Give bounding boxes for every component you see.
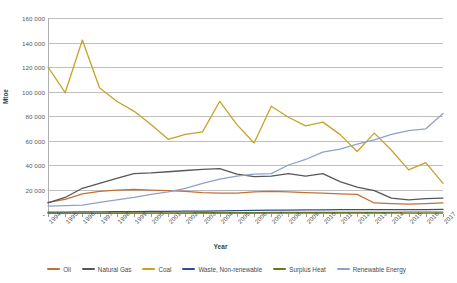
x-tick-label: 2017 bbox=[442, 210, 457, 225]
x-axis-title: Year bbox=[0, 243, 453, 250]
legend-swatch-icon bbox=[47, 268, 60, 270]
series-line-coal bbox=[48, 40, 443, 183]
legend-item-waste-non-renewable[interactable]: Waste, Non-renewable bbox=[182, 266, 262, 273]
y-tick-label: 160 000 bbox=[22, 15, 45, 22]
y-tick-label: 140 000 bbox=[22, 39, 45, 46]
y-tick-label: 20 000 bbox=[25, 186, 45, 193]
series-lines bbox=[48, 18, 443, 214]
legend-label: Natural Gas bbox=[98, 266, 132, 273]
y-tick-label: 60 000 bbox=[25, 137, 45, 144]
legend-label: Coal bbox=[158, 266, 171, 273]
legend-item-renewable-energy[interactable]: Renewable Energy bbox=[337, 266, 406, 273]
plot-area bbox=[48, 18, 443, 214]
legend-label: Surplus Heat bbox=[289, 266, 325, 273]
y-tick-label: 80 000 bbox=[25, 113, 45, 120]
series-line-natural-gas bbox=[48, 169, 443, 203]
series-line-oil bbox=[48, 190, 443, 205]
legend-item-natural-gas[interactable]: Natural Gas bbox=[82, 266, 132, 273]
legend-swatch-icon bbox=[82, 268, 95, 270]
legend-label: Oil bbox=[63, 266, 71, 273]
y-tick-label: 120 000 bbox=[22, 64, 45, 71]
legend-item-coal[interactable]: Coal bbox=[142, 266, 171, 273]
legend-label: Waste, Non-renewable bbox=[198, 266, 262, 273]
x-axis-tick-labels: 1994199519961997199819992000200120022003… bbox=[0, 216, 453, 244]
y-tick-label: 100 000 bbox=[22, 88, 45, 95]
legend-swatch-icon bbox=[142, 268, 155, 270]
x-axis-title-text: Year bbox=[214, 243, 228, 250]
chart-legend: OilNatural GasCoalWaste, Non-renewableSu… bbox=[0, 262, 453, 276]
legend-swatch-icon bbox=[273, 268, 286, 270]
legend-item-oil[interactable]: Oil bbox=[47, 266, 71, 273]
legend-item-surplus-heat[interactable]: Surplus Heat bbox=[273, 266, 325, 273]
legend-swatch-icon bbox=[337, 268, 350, 270]
y-tick-label: 40 000 bbox=[25, 162, 45, 169]
legend-label: Renewable Energy bbox=[353, 266, 406, 273]
legend-swatch-icon bbox=[182, 268, 195, 270]
